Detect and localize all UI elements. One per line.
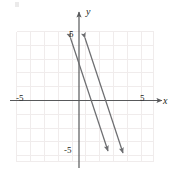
plot-line-2 [85, 38, 123, 153]
x-axis-tick-label-positive-5: 5 [140, 94, 145, 103]
y-axis-tick-label-positive-5: 5 [69, 30, 74, 39]
y-axis-name-label: y [86, 7, 90, 17]
x-axis-name-label: x [163, 96, 167, 106]
coordinate-plane-figure: -5 5 5 -5 x y [0, 0, 177, 171]
grid-lines [17, 32, 154, 162]
y-axis-tick-label-negative-5: -5 [64, 146, 72, 155]
graph-canvas [0, 0, 177, 171]
x-axis-tick-label-negative-5: -5 [16, 94, 24, 103]
plot-line-1 [71, 38, 109, 151]
